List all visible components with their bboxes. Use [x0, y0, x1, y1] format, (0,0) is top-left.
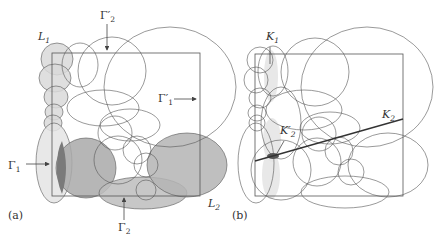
cover-set-outline — [281, 38, 349, 106]
label-Gamma1p: Γ′1 — [158, 92, 173, 107]
label-Gamma1: Γ1 — [8, 159, 20, 174]
label-L1: L1 — [37, 30, 50, 45]
panel-a: L1Γ′2Γ′1Γ1Γ2L2(a) — [8, 9, 236, 236]
cover-set-outline — [78, 37, 146, 105]
panel-b: K1K2K′2(b) — [232, 27, 433, 222]
cover-set-outline — [98, 116, 132, 150]
label-L2: L2 — [207, 197, 220, 212]
panel-caption-a: (a) — [8, 209, 23, 222]
label-Gamma2: Γ2 — [118, 221, 131, 236]
region-shaded — [147, 133, 227, 197]
label-K1: K1 — [265, 30, 279, 45]
region-shaded — [264, 50, 278, 102]
label-K2: K2 — [381, 108, 395, 123]
cover-set-outline — [293, 138, 341, 186]
cover-set-outline — [338, 159, 364, 185]
cover-set-outline — [301, 176, 389, 208]
label-K2p: K′2 — [279, 124, 296, 139]
cover-set-outline — [123, 136, 151, 164]
cover-set-outline — [104, 27, 236, 147]
panel-caption-b: (b) — [232, 209, 248, 222]
cover-set-outline — [251, 140, 311, 200]
cover-set-outline — [266, 90, 342, 130]
cover-set-outline — [325, 137, 353, 165]
figure-canvas: L1Γ′2Γ′1Γ1Γ2L2(a) K1K2K′2(b) — [0, 0, 442, 247]
cover-set-outline — [348, 133, 428, 197]
label-Gamma2p: Γ′2 — [100, 9, 115, 24]
